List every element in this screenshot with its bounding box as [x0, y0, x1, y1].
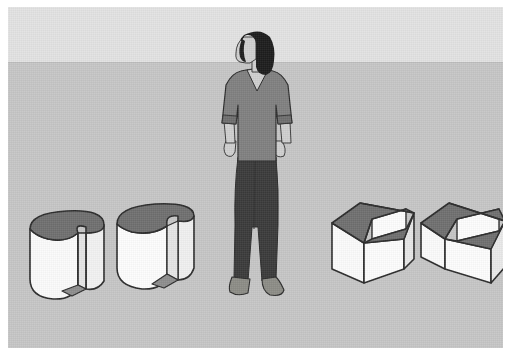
slotted-cylinder-right: [112, 194, 202, 299]
right-shoe: [262, 277, 284, 295]
left-sleeve-cuff: [222, 115, 237, 124]
cylinder-left-right-wall: [86, 225, 104, 289]
illustration-canvas: [8, 7, 503, 348]
cylinder-right-slot-inner-wall: [167, 221, 178, 280]
face: [236, 37, 256, 63]
notched-cube-right: [415, 195, 503, 290]
cylinder-right-right-wall: [178, 216, 194, 280]
standing-woman: [204, 29, 314, 309]
slotted-cylinder-left: [26, 203, 116, 308]
cube-left-step-front-face: [364, 239, 404, 283]
cylinder-left-slot-inner-wall: [78, 233, 86, 289]
pants: [234, 157, 278, 281]
right-sleeve-cuff: [277, 115, 292, 124]
left-shoe: [229, 277, 250, 295]
notched-cube-left: [328, 197, 428, 292]
